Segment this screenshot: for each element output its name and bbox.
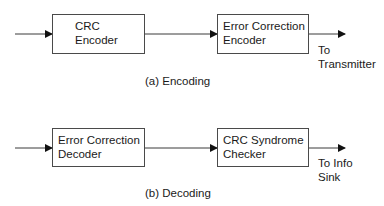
block-label-line2: Decoder — [58, 147, 144, 161]
error-correction-decoder-block: Error Correction Decoder — [52, 128, 145, 167]
block-label-line1: CRC — [75, 19, 144, 33]
encoding-output-label: To Transmitter — [318, 43, 376, 71]
output-label-line1: To — [318, 43, 376, 57]
block-label-line1: CRC Syndrome — [223, 133, 308, 147]
block-label-line2: Encoder — [223, 33, 308, 47]
decoding-caption: (b) Decoding — [145, 186, 211, 200]
block-label-line2: Encoder — [75, 33, 144, 47]
decoding-output-label: To Info Sink — [318, 156, 353, 184]
block-label-line1: Error Correction — [223, 19, 308, 33]
block-label-line1: Error Correction — [58, 133, 144, 147]
encoding-caption: (a) Encoding — [145, 74, 210, 88]
crc-encoder-block: CRC Encoder — [52, 14, 145, 54]
error-correction-encoder-block: Error Correction Encoder — [217, 14, 309, 54]
output-label-line2: Transmitter — [318, 57, 376, 71]
output-label-line2: Sink — [318, 170, 353, 184]
crc-syndrome-checker-block: CRC Syndrome Checker — [217, 128, 309, 167]
output-label-line1: To Info — [318, 156, 353, 170]
block-label-line2: Checker — [223, 147, 308, 161]
